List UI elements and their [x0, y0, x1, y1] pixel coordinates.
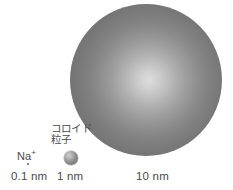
- scale-label-1nm: 1 nm: [57, 170, 83, 182]
- scale-comparison-diagram: Na+ コロイド 粒子 0.1 nm 1 nm 10 nm: [0, 0, 233, 190]
- sodium-ion-charge-superscript: +: [31, 148, 36, 157]
- large-sphere-10nm: [70, 4, 222, 156]
- sodium-ion-dot-0-1nm: [27, 163, 29, 165]
- colloid-particle-label-line1: コロイド: [51, 122, 92, 134]
- sodium-ion-label-text: Na: [17, 150, 31, 162]
- scale-label-0-1nm: 0.1 nm: [11, 170, 47, 182]
- sodium-ion-label: Na+: [17, 151, 36, 163]
- colloid-particle-sphere-1nm: [64, 151, 78, 165]
- colloid-particle-label: コロイド 粒子: [51, 123, 92, 146]
- colloid-particle-label-line2: 粒子: [51, 134, 92, 145]
- scale-label-10nm: 10 nm: [136, 170, 169, 182]
